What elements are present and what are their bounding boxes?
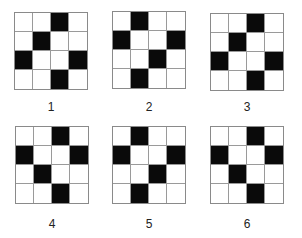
filled-cell	[113, 146, 131, 165]
filled-cell	[149, 50, 167, 69]
empty-cell	[265, 165, 283, 184]
empty-cell	[34, 146, 52, 165]
empty-cell	[70, 127, 88, 146]
empty-cell	[16, 127, 34, 146]
pattern-grid	[14, 12, 88, 90]
empty-cell	[211, 14, 229, 33]
empty-cell	[229, 184, 247, 203]
empty-cell	[229, 71, 247, 90]
empty-cell	[211, 71, 229, 90]
empty-cell	[15, 13, 33, 32]
empty-cell	[229, 127, 247, 146]
empty-cell	[51, 32, 69, 51]
empty-cell	[211, 184, 229, 203]
empty-cell	[167, 69, 185, 88]
empty-cell	[167, 12, 185, 31]
empty-cell	[247, 165, 265, 184]
empty-cell	[113, 12, 131, 31]
empty-cell	[211, 165, 229, 184]
filled-cell	[247, 184, 265, 203]
filled-cell	[211, 52, 229, 71]
panel-5: 5	[112, 126, 186, 204]
empty-cell	[15, 32, 33, 51]
filled-cell	[15, 51, 33, 70]
empty-cell	[52, 146, 70, 165]
filled-cell	[247, 127, 265, 146]
filled-cell	[131, 184, 149, 203]
empty-cell	[149, 31, 167, 50]
filled-cell	[229, 165, 247, 184]
empty-cell	[167, 127, 185, 146]
filled-cell	[113, 31, 131, 50]
filled-cell	[33, 32, 51, 51]
filled-cell	[52, 127, 70, 146]
pattern-grid	[112, 11, 186, 89]
panel-label: 5	[112, 217, 186, 231]
filled-cell	[265, 146, 283, 165]
empty-cell	[69, 70, 87, 89]
empty-cell	[247, 146, 265, 165]
empty-cell	[265, 184, 283, 203]
empty-cell	[33, 51, 51, 70]
empty-cell	[69, 13, 87, 32]
filled-cell	[211, 146, 229, 165]
empty-cell	[149, 69, 167, 88]
panel-label: 6	[210, 217, 284, 231]
empty-cell	[149, 127, 167, 146]
panel-label: 2	[112, 100, 186, 114]
empty-cell	[247, 33, 265, 52]
empty-cell	[16, 184, 34, 203]
pattern-grid	[15, 126, 89, 204]
panel-4: 4	[15, 126, 89, 204]
filled-cell	[167, 31, 185, 50]
empty-cell	[167, 165, 185, 184]
filled-cell	[69, 51, 87, 70]
pattern-grid	[210, 13, 284, 91]
panel-label: 1	[14, 100, 88, 114]
panel-3: 3	[210, 13, 284, 91]
filled-cell	[131, 127, 149, 146]
empty-cell	[265, 71, 283, 90]
filled-cell	[131, 69, 149, 88]
filled-cell	[149, 165, 167, 184]
panel-2: 2	[112, 11, 186, 89]
panel-label: 3	[210, 100, 284, 114]
empty-cell	[265, 14, 283, 33]
panel-1: 1	[14, 12, 88, 90]
empty-cell	[167, 184, 185, 203]
empty-cell	[131, 31, 149, 50]
empty-cell	[265, 127, 283, 146]
filled-cell	[51, 70, 69, 89]
empty-cell	[34, 184, 52, 203]
filled-cell	[70, 146, 88, 165]
empty-cell	[70, 165, 88, 184]
empty-cell	[149, 146, 167, 165]
filled-cell	[16, 146, 34, 165]
filled-cell	[229, 33, 247, 52]
empty-cell	[113, 165, 131, 184]
empty-cell	[15, 70, 33, 89]
empty-cell	[113, 127, 131, 146]
pattern-grid	[210, 126, 284, 204]
filled-cell	[247, 14, 265, 33]
empty-cell	[113, 50, 131, 69]
empty-cell	[149, 12, 167, 31]
empty-cell	[33, 70, 51, 89]
panel-6: 6	[210, 126, 284, 204]
empty-cell	[16, 165, 34, 184]
pattern-grid	[112, 126, 186, 204]
empty-cell	[34, 127, 52, 146]
empty-cell	[131, 146, 149, 165]
empty-cell	[131, 165, 149, 184]
empty-cell	[51, 51, 69, 70]
empty-cell	[149, 184, 167, 203]
empty-cell	[113, 69, 131, 88]
empty-cell	[211, 127, 229, 146]
filled-cell	[34, 165, 52, 184]
empty-cell	[167, 50, 185, 69]
empty-cell	[229, 14, 247, 33]
panel-label: 4	[15, 217, 89, 231]
empty-cell	[113, 184, 131, 203]
filled-cell	[52, 184, 70, 203]
empty-cell	[70, 184, 88, 203]
